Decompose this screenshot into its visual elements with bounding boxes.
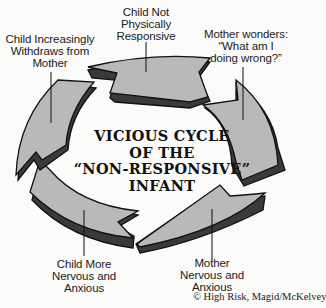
title-line-3: “NON-RESPONSIVE” — [72, 161, 252, 178]
step-1-line-3: Responsive — [106, 30, 186, 42]
copyright-credit: © High Risk, Magid/McKelvey — [193, 291, 326, 302]
title-line-1: VICIOUS CYCLE — [72, 128, 252, 145]
title-line-4: INFANT — [72, 178, 252, 195]
step-1-line-1: Child Not — [106, 6, 186, 18]
step-5-line-1: Child Increasingly — [2, 33, 98, 45]
step-2-line-3: doing wrong?” — [196, 52, 296, 64]
step-3-line-2: Nervous and — [172, 269, 252, 281]
step-5-line-3: Mother — [2, 57, 98, 69]
diagram-title: VICIOUS CYCLE OF THE “NON-RESPONSIVE” IN… — [72, 128, 252, 194]
step-5-line-2: Withdraws from — [2, 45, 98, 57]
step-3-line-1: Mother — [172, 257, 252, 269]
step-4-line-2: Nervous and — [44, 270, 124, 282]
step-2-line-1: Mother wonders: — [196, 28, 296, 40]
arrow-step-3 — [136, 185, 265, 253]
step-label-3: Mother Nervous and Anxious — [172, 257, 252, 293]
step-1-line-2: Physically — [106, 18, 186, 30]
step-4-line-3: Anxious — [44, 282, 124, 294]
step-label-2: Mother wonders: “What am I doing wrong?” — [196, 28, 296, 64]
title-line-2: OF THE — [72, 145, 252, 162]
step-4-line-1: Child More — [44, 258, 124, 270]
step-2-line-2: “What am I — [196, 40, 296, 52]
step-label-4: Child More Nervous and Anxious — [44, 258, 124, 294]
arrow-step-1 — [88, 56, 210, 108]
step-label-1: Child Not Physically Responsive — [106, 6, 186, 42]
step-label-5: Child Increasingly Withdraws from Mother — [2, 33, 98, 69]
